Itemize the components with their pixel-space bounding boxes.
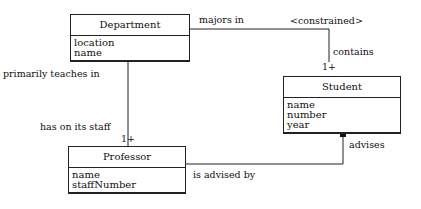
class-student-operations <box>284 133 400 136</box>
class-student[interactable]: Student name number year <box>283 76 401 134</box>
class-professor-title: Professor <box>69 147 185 168</box>
multiplicity-student: 1+ <box>322 62 336 72</box>
label-constrained: <constrained> <box>290 16 363 26</box>
majors-association-line <box>190 29 329 62</box>
attribute: year <box>287 120 400 130</box>
attribute: name <box>74 48 189 58</box>
multiplicity-professor: 1+ <box>121 134 135 144</box>
class-professor-attributes: name staffNumber <box>69 168 185 193</box>
class-department-operations <box>71 61 189 64</box>
class-department[interactable]: Department location name <box>70 14 190 62</box>
label-is-advised-by: is advised by <box>193 170 255 180</box>
attribute: staffNumber <box>72 180 185 190</box>
label-primarily-teaches-in: primarily teaches in <box>3 69 100 79</box>
label-majors-in: majors in <box>199 15 244 25</box>
class-student-attributes: name number year <box>284 98 400 133</box>
label-has-on-its-staff: has on its staff <box>40 122 110 132</box>
class-department-attributes: location name <box>71 36 189 61</box>
class-student-title: Student <box>284 77 400 98</box>
label-contains: contains <box>333 47 374 57</box>
class-professor[interactable]: Professor name staffNumber <box>68 146 186 194</box>
class-professor-operations <box>69 193 185 196</box>
label-advises: advises <box>349 140 385 150</box>
advises-association-line <box>186 134 343 164</box>
class-department-title: Department <box>71 15 189 36</box>
